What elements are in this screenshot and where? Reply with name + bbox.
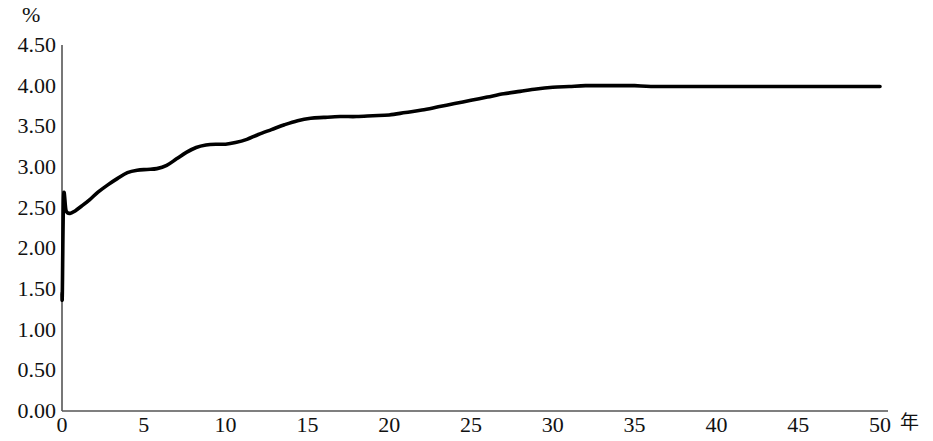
- x-tick-label: 20: [367, 414, 411, 436]
- x-tick-label: 40: [694, 414, 738, 436]
- chart-plot-area: [0, 0, 933, 441]
- x-tick-label: 35: [613, 414, 657, 436]
- y-tick-label: 4.00: [0, 75, 56, 97]
- y-tick-label: 1.50: [0, 278, 56, 300]
- x-tick-label: 50: [858, 414, 902, 436]
- line-series-path: [62, 86, 880, 301]
- y-tick-label: 0.50: [0, 359, 56, 381]
- y-tick-label: 3.00: [0, 156, 56, 178]
- data-series-group: [62, 86, 880, 301]
- y-tick-label: 1.00: [0, 319, 56, 341]
- x-tick-label: 5: [122, 414, 166, 436]
- x-tick-label: 0: [40, 414, 84, 436]
- x-tick-label: 30: [531, 414, 575, 436]
- y-tick-label: 2.00: [0, 237, 56, 259]
- x-tick-label: 15: [285, 414, 329, 436]
- x-tick-label: 45: [776, 414, 820, 436]
- x-tick-label: 10: [204, 414, 248, 436]
- y-tick-label: 2.50: [0, 197, 56, 219]
- y-tick-label: 4.50: [0, 34, 56, 56]
- chart-container: % 年 0.000.501.001.502.002.503.003.504.00…: [0, 0, 933, 441]
- y-axis-unit-label: %: [22, 4, 40, 26]
- x-tick-label: 25: [449, 414, 493, 436]
- y-tick-label: 3.50: [0, 115, 56, 137]
- x-axis-unit-label: 年: [900, 413, 919, 432]
